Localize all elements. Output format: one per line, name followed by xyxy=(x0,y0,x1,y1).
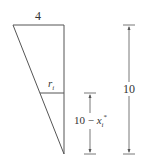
total-height-label: 10 xyxy=(123,82,135,96)
triangle xyxy=(13,25,64,154)
lower-dimension-label: 10 − xi* xyxy=(74,113,108,129)
slice-radius-label: ri xyxy=(48,77,54,92)
hypotenuse xyxy=(13,25,64,154)
diagram-canvas: 4 ri 10 − xi* 10 xyxy=(0,0,147,161)
top-width-label: 4 xyxy=(35,9,41,23)
